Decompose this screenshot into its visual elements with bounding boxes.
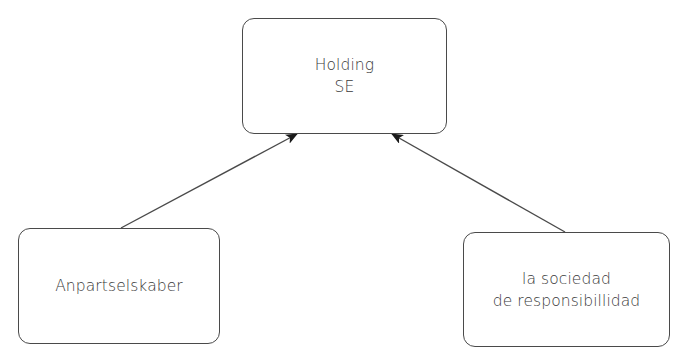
- node-label-line: la sociedad: [522, 268, 611, 290]
- node-label-line: de responsibillidad: [493, 290, 641, 312]
- edge-sociedad-to-holding: [392, 134, 565, 232]
- diagram-canvas: Holding SE Anpartselskaber la sociedad d…: [0, 0, 679, 352]
- node-holding-se[interactable]: Holding SE: [242, 18, 447, 134]
- node-sociedad-de-responsibillidad[interactable]: la sociedad de responsibillidad: [463, 232, 670, 347]
- edge-anpartselskaber-to-holding: [121, 134, 297, 228]
- node-label-line: SE: [335, 76, 355, 98]
- node-anpartselskaber[interactable]: Anpartselskaber: [18, 228, 220, 344]
- node-label-line: Holding: [315, 54, 374, 76]
- node-label-line: Anpartselskaber: [55, 275, 183, 297]
